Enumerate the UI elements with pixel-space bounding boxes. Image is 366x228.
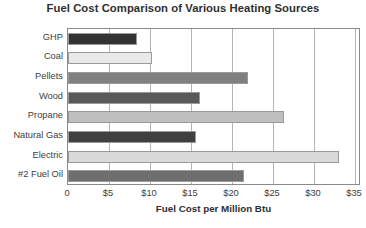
- category-label: Pellets: [0, 71, 63, 81]
- bar-row: [68, 33, 359, 45]
- bar-row: [68, 52, 359, 64]
- bar-row: [68, 170, 359, 182]
- bar-row: [68, 111, 359, 123]
- value-axis-tick-labels: 0$5$10$15$20$25$30$35: [0, 188, 366, 202]
- bar-2-fuel-oil: [68, 170, 244, 182]
- x-tick-label: 0: [64, 188, 69, 198]
- x-tick-label: $25: [264, 188, 280, 198]
- category-label: Wood: [0, 91, 63, 101]
- bar-row: [68, 92, 359, 104]
- bars-layer: [68, 29, 359, 184]
- category-axis-labels: GHPCoalPelletsWoodPropaneNatural GasElec…: [0, 28, 63, 185]
- category-label: GHP: [0, 32, 63, 42]
- x-tick-label: $15: [182, 188, 198, 198]
- bar-electric: [68, 151, 339, 163]
- bar-propane: [68, 111, 284, 123]
- x-tick-label: $30: [305, 188, 321, 198]
- category-label: Natural Gas: [0, 130, 63, 140]
- bar-row: [68, 131, 359, 143]
- bar-row: [68, 151, 359, 163]
- x-tick-label: $20: [223, 188, 239, 198]
- category-label: Electric: [0, 150, 63, 160]
- chart-title: Fuel Cost Comparison of Various Heating …: [0, 2, 366, 14]
- category-label: #2 Fuel Oil: [0, 169, 63, 179]
- bar-pellets: [68, 72, 248, 84]
- bar-wood: [68, 92, 200, 104]
- bar-ghp: [68, 33, 137, 45]
- x-tick-label: $10: [141, 188, 157, 198]
- bar-coal: [68, 52, 152, 64]
- x-tick-label: $35: [346, 188, 362, 198]
- category-label: Propane: [0, 110, 63, 120]
- x-tick-label: $5: [103, 188, 113, 198]
- x-axis-title: Fuel Cost per Million Btu: [67, 203, 360, 214]
- bar-chart: Fuel Cost Comparison of Various Heating …: [0, 0, 366, 228]
- bar-row: [68, 72, 359, 84]
- bar-natural-gas: [68, 131, 196, 143]
- plot-area: [67, 28, 360, 185]
- category-label: Coal: [0, 51, 63, 61]
